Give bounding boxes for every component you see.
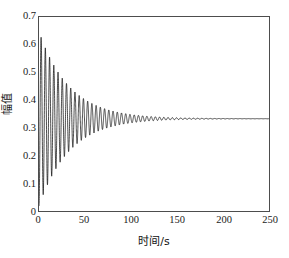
chart-page: 0.7 0.6 0.5 0.4 0.3 0.2 0.1 0 0 50 100 1… — [0, 0, 289, 258]
x-tick-label: 100 — [111, 215, 151, 226]
y-tick-label: 0.6 — [6, 39, 36, 50]
y-tick-label: 0.5 — [6, 67, 36, 78]
x-tick-label: 50 — [64, 215, 104, 226]
y-tick-label: 0.2 — [6, 151, 36, 162]
x-tick-label: 250 — [250, 215, 289, 226]
y-axis-title: 幅值 — [0, 82, 14, 126]
x-tick-label: 150 — [157, 215, 197, 226]
damped-oscillation-line — [39, 37, 269, 206]
x-axis-title: 时间/s — [38, 232, 270, 248]
y-tick-label: 0.7 — [6, 11, 36, 22]
x-tick-label: 200 — [204, 215, 244, 226]
plot-canvas — [39, 17, 269, 211]
y-tick-label: 0.1 — [6, 179, 36, 190]
plot-area — [38, 16, 270, 212]
x-tick-label: 0 — [18, 215, 58, 226]
